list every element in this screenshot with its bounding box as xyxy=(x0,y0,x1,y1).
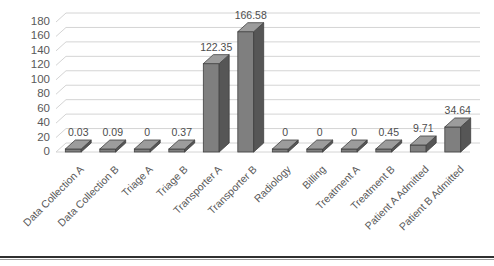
x-axis-category-label: Billing xyxy=(300,164,328,192)
x-axis: Data Collection AData Collection BTriage… xyxy=(0,0,494,266)
x-axis-category-label: Triage A xyxy=(120,164,155,199)
x-axis-category-label: Data Collection A xyxy=(21,164,86,229)
page-divider-light xyxy=(0,259,494,260)
x-axis-category-label: Patient B Admitted xyxy=(397,164,466,233)
page-divider xyxy=(0,256,494,258)
bar-chart: 180160140120100806040200 0.030.0900.3712… xyxy=(0,0,494,266)
x-axis-category-label: Radiology xyxy=(252,164,293,205)
